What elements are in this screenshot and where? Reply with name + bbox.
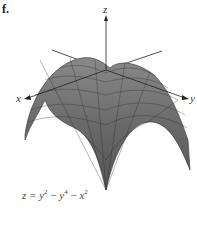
equation: z = y2 − y4 − x2 xyxy=(22,188,88,201)
y-arrow-icon xyxy=(182,95,189,100)
z-axis-label: z xyxy=(103,3,107,15)
x-axis-label: x xyxy=(16,92,21,104)
y-axis-label: y xyxy=(190,92,195,104)
z-arrow-icon xyxy=(104,15,108,21)
panel-label: f. xyxy=(2,2,9,17)
surface xyxy=(25,58,190,190)
x-arrow-icon xyxy=(24,95,31,100)
